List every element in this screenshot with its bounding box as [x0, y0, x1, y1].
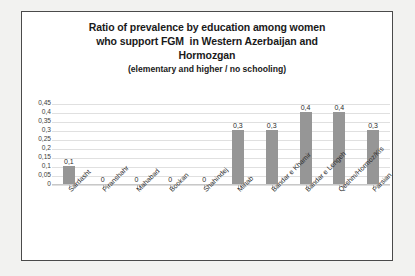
bar-value-label: 0,3	[252, 122, 292, 130]
bar	[232, 130, 244, 184]
bar-value-label: 0,4	[319, 104, 359, 112]
bar	[333, 112, 345, 184]
y-axis-tick-label: 0,05	[23, 171, 51, 178]
bar-value-label: 0,1	[49, 158, 89, 166]
y-axis-tick-label: 0,1	[23, 162, 51, 169]
bar-value-label: 0,3	[353, 122, 393, 130]
plot-wrapper: 0,450,40,350,30,250,20,150,10,050 0,1000…	[22, 12, 392, 260]
y-axis-tick-label: 0,45	[23, 99, 51, 106]
x-axis-category-labels: SardashtPiranshahrMahabadBookanShahindej…	[52, 188, 390, 258]
bar	[300, 112, 312, 184]
y-axis-tick-label: 0,2	[23, 144, 51, 151]
y-axis-tick-label: 0,25	[23, 135, 51, 142]
y-axis-tick-label: 0,4	[23, 108, 51, 115]
chart-container: Ratio of prevalence by education among w…	[21, 11, 393, 261]
y-axis-tick-label: 0,15	[23, 153, 51, 160]
y-axis-tick-labels: 0,450,40,350,30,250,20,150,10,050	[23, 102, 51, 184]
bar	[266, 130, 278, 184]
y-axis-tick-label: 0,35	[23, 117, 51, 124]
y-axis-tick-label: 0,3	[23, 126, 51, 133]
y-axis-tick-label: 0	[23, 180, 51, 187]
